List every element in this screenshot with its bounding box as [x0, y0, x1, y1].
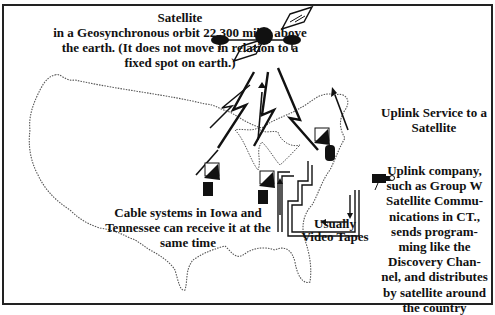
label-line: Tennessee can receive it at the: [88, 220, 288, 235]
caption-line: fixed spot on earth.): [30, 55, 330, 70]
cable-systems-label: Cable systems in Iowa and Tennessee can …: [88, 205, 288, 250]
label-line: Satellite: [378, 120, 490, 135]
satellite-dish-icon: [203, 163, 220, 196]
label-line: same time: [88, 235, 288, 250]
video-tapes-label: Usually Video Tapes: [285, 217, 385, 243]
satellite-dish-icon: [314, 128, 335, 161]
label-line: by satellite around: [376, 285, 493, 300]
label-line: such as Group W: [376, 178, 493, 193]
label-line: Cable systems in Iowa and: [88, 205, 288, 220]
label-line: Uplink company,: [376, 163, 493, 178]
label-line: nications in CT.,: [376, 209, 493, 224]
label-line: Video Tapes: [285, 230, 385, 243]
caption-line: in a Geosynchronous orbit 22,300 miles a…: [30, 25, 330, 40]
uplink-service-label: Uplink Service to a Satellite: [378, 105, 490, 135]
us-map-outline: [29, 74, 348, 290]
label-line: Satellite Commu-: [376, 193, 493, 208]
uplink-company-label: Uplink company, such as Group W Satellit…: [376, 163, 493, 315]
caption-line: the earth. (It does not move in relation…: [30, 40, 330, 55]
great-lakes-outline: [235, 128, 300, 170]
satellite-caption: Satellite in a Geosynchronous orbit 22,3…: [30, 10, 330, 70]
label-line: ming like the: [376, 239, 493, 254]
label-line: Discovery Chan-: [376, 254, 493, 269]
label-line: sends program-: [376, 224, 493, 239]
satellite-dish-icon: [258, 171, 275, 204]
satellite-heading: Satellite: [30, 10, 330, 25]
signal-arrow-icon: [210, 68, 318, 150]
label-line: the country: [376, 300, 493, 315]
label-line: nel, and distributes: [376, 269, 493, 284]
label-line: Uplink Service to a: [378, 105, 490, 120]
